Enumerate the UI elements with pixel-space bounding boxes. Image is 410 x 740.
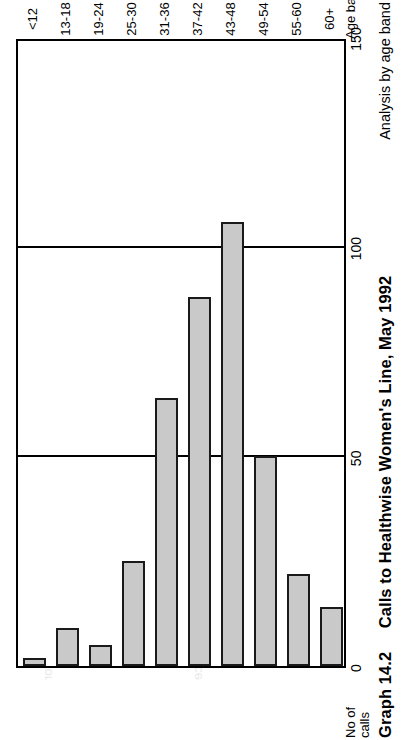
caption-title: Calls to Healthwise Women's Line, May 19… [376,276,394,629]
bar [155,398,178,666]
bar [320,607,343,666]
plot-wrap [16,39,346,668]
bar [221,222,244,666]
category-tick-label: 13-18 [59,0,73,39]
bars-layer [18,41,344,666]
caption-label: Graph 14.2 [376,652,394,738]
category-tick-label: 60+ [323,0,337,39]
category-tick-label: 43-48 [224,0,238,39]
caption-subtitle: Analysis by age band [377,2,393,140]
caption-row: Graph 14.2 Calls to Healthwise Women's L… [374,0,404,740]
bar [56,628,79,666]
bar [89,645,112,666]
figure-caption: Graph 14.2 Calls to Healthwise Women's L… [376,276,395,738]
category-axis: <1213-1819-2425-3031-3637-4243-4849-5455… [16,0,346,39]
bar [254,456,277,666]
rotated-figure: a specialist service forsupporting women… [0,0,410,740]
category-tick-label: 19-24 [92,0,106,39]
category-axis-title: Age band [344,0,358,39]
value-tick-label: 0 [348,664,364,672]
bar [122,561,145,666]
category-tick-label: 31-36 [158,0,172,39]
value-axis-title-line1: No of [344,672,358,738]
category-tick-label: 49-54 [257,0,271,39]
plot-area [16,39,346,668]
bar [287,574,310,666]
bar [23,658,46,666]
category-tick-label: 55-60 [290,0,304,39]
category-tick-label: <12 [26,0,40,39]
bar [188,297,211,666]
value-tick-label: 100 [348,237,364,260]
category-tick-label: 25-30 [125,0,139,39]
category-tick-label: 37-42 [191,0,205,39]
value-axis: 050100150 [348,39,374,668]
value-axis-title-line2: calls [358,672,372,738]
value-axis-title: No of calls [344,672,372,738]
value-tick-label: 50 [348,451,364,467]
figure-inner: a specialist service forsupporting women… [0,0,410,740]
